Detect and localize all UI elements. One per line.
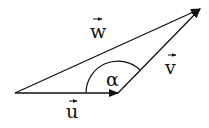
label-u-text: u [66,100,78,122]
label-u: u [66,100,78,122]
diagram-svg: w v u α [0,0,209,128]
vector-v-arrow [118,9,200,93]
label-v: v [164,55,176,78]
label-w: w [90,19,107,42]
label-alpha: α [106,68,119,90]
label-w-text: w [90,20,107,42]
label-v-text: v [164,56,176,78]
vector-diagram: w v u α [0,0,209,128]
